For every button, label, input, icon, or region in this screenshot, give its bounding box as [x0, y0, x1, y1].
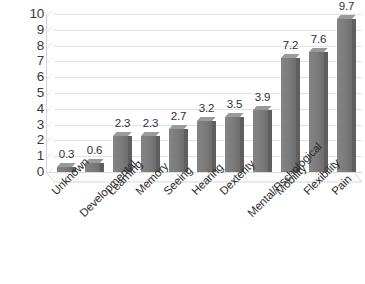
bar: [197, 117, 216, 172]
y-tick-label-2: 2: [10, 133, 44, 147]
bar-series: 0.30.62.32.32.73.23.53.97.27.69.7: [46, 0, 362, 284]
bar: [225, 113, 244, 172]
bar-front-face: [225, 117, 240, 172]
bar: [281, 54, 300, 172]
bar-front-face: [113, 136, 128, 172]
y-tick-label-3: 3: [10, 118, 44, 132]
bar: [85, 159, 104, 172]
bar-front-face: [85, 163, 100, 172]
bar: [253, 106, 272, 172]
bar-front-face: [169, 129, 184, 172]
y-tick-label-1: 1: [10, 149, 44, 163]
bar-front-face: [309, 52, 324, 172]
bar-side-face: [184, 129, 188, 172]
bar-chart: 109876543210 0.30.62.32.32.73.23.53.97.2…: [0, 0, 365, 284]
bar-side-face: [156, 136, 160, 172]
bar-front-face: [281, 58, 296, 172]
bar-front-face: [197, 121, 212, 172]
bar: [309, 48, 328, 172]
y-tick-label-7: 7: [10, 54, 44, 68]
data-label: 7.6: [297, 34, 339, 46]
bar-side-face: [296, 58, 300, 172]
bar: [113, 132, 132, 172]
bar-side-face: [352, 19, 356, 172]
y-tick-label-10: 10: [10, 7, 44, 21]
data-label: 3.9: [241, 92, 283, 104]
y-tick-label-0: 0: [10, 165, 44, 179]
y-tick-label-4: 4: [10, 102, 44, 116]
y-tick-label-8: 8: [10, 39, 44, 53]
y-tick-label-6: 6: [10, 70, 44, 84]
y-tick-label-9: 9: [10, 23, 44, 37]
y-axis-tick-labels: 109876543210: [0, 0, 44, 284]
bar-front-face: [337, 19, 352, 172]
bar: [169, 125, 188, 172]
bar-front-face: [141, 136, 156, 172]
bar: [57, 163, 76, 172]
bar-front-face: [57, 167, 72, 172]
bar-side-face: [268, 110, 272, 172]
bar-side-face: [72, 167, 76, 172]
bar: [337, 15, 356, 172]
y-tick-label-5: 5: [10, 86, 44, 100]
bar-side-face: [324, 52, 328, 172]
bar-side-face: [212, 121, 216, 172]
bar: [141, 132, 160, 172]
data-label: 0.6: [73, 145, 115, 157]
bar-side-face: [240, 117, 244, 172]
bar-side-face: [100, 163, 104, 172]
data-label: 9.7: [325, 1, 365, 13]
bar-side-face: [128, 136, 132, 172]
bar-front-face: [253, 110, 268, 172]
